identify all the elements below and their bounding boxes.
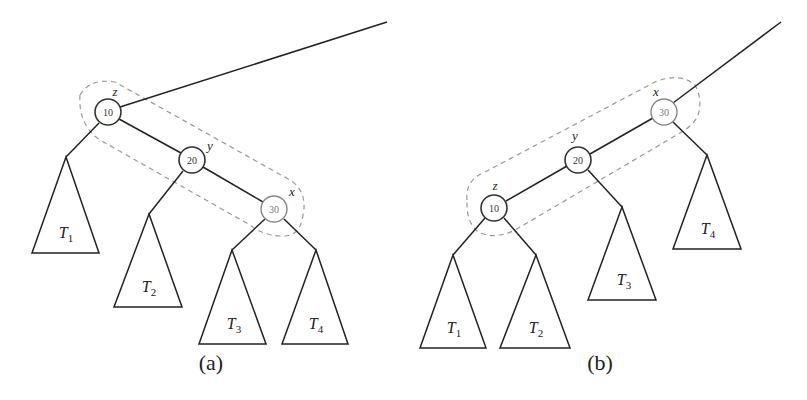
trinode-restructure-diagram: T1 T2 T3 T4 10 z 20 y 30 x (a) [0, 0, 807, 400]
node-x-key: 30 [269, 204, 279, 215]
edge-x-y [590, 118, 653, 154]
edge-x-t3 [232, 219, 265, 250]
edge-x-t4 [673, 122, 707, 155]
node-z-key: 10 [489, 203, 499, 214]
node-y-label: y [570, 128, 578, 143]
edge-z-y [119, 119, 181, 153]
edge-parent-x [673, 22, 781, 103]
edge-y-t3 [588, 170, 622, 207]
panel-b: T4 T3 T1 T2 30 x 20 y 10 z (b) [420, 22, 781, 375]
node-y: 20 y [179, 138, 213, 173]
edge-x-t4 [284, 219, 316, 250]
edge-z-t1 [453, 218, 485, 255]
panel-a: T1 T2 T3 T4 10 z 20 y 30 x (a) [32, 22, 387, 375]
node-x-label: x [652, 84, 659, 99]
node-y-key: 20 [187, 155, 197, 166]
caption-b: (b) [587, 350, 613, 375]
node-z: 10 z [481, 178, 507, 221]
caption-a: (a) [199, 350, 223, 375]
node-z-label: z [491, 178, 497, 193]
edge-y-z [506, 166, 567, 201]
node-x: 30 x [651, 84, 677, 125]
node-y-label: y [205, 138, 213, 153]
edge-y-x [203, 167, 263, 202]
node-x: 30 x [261, 184, 295, 222]
node-z: 10 z [95, 84, 121, 125]
node-x-key: 30 [659, 107, 669, 118]
node-x-label: x [288, 184, 295, 199]
node-z-key: 10 [103, 107, 113, 118]
node-z-label: z [111, 84, 117, 99]
node-y-key: 20 [573, 155, 583, 166]
node-y: 20 y [565, 128, 591, 173]
edge-z-t1 [66, 123, 99, 157]
edge-z-t2 [504, 218, 536, 255]
edge-parent-z [120, 22, 387, 107]
